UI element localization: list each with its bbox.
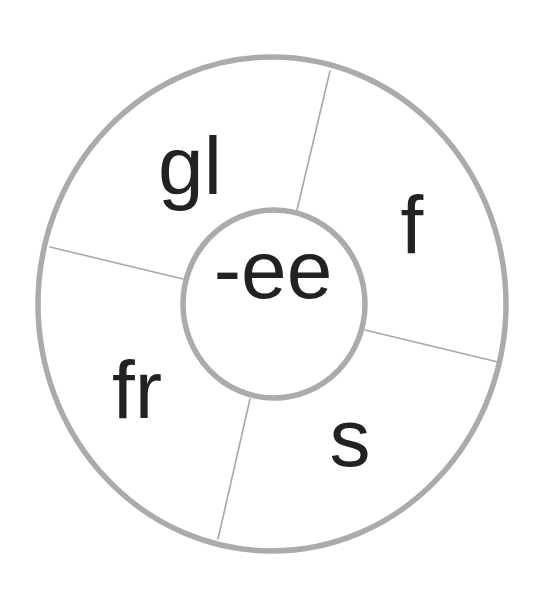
center-label: -ee <box>214 224 333 315</box>
divider-bottom <box>218 399 250 539</box>
segment-label-top-right: f <box>401 179 424 270</box>
word-wheel-graphic: gl f s fr -ee <box>0 0 542 589</box>
divider-top <box>297 71 330 210</box>
segment-label-bottom-left: fr <box>112 344 162 435</box>
segment-label-bottom-right: s <box>330 392 371 483</box>
word-wheel: gl f s fr -ee <box>0 0 542 589</box>
divider-right <box>365 330 498 362</box>
segment-label-top-left: gl <box>158 120 222 211</box>
divider-left <box>50 247 183 279</box>
